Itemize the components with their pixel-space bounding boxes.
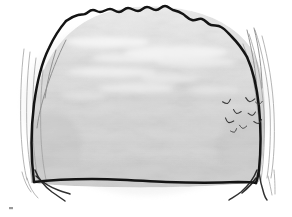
sketch-canvas: Hand-drawn sketch of a large rounded bou… <box>0 0 292 217</box>
boulder-sketch-illustration <box>0 0 292 217</box>
corner-mark <box>9 207 13 209</box>
